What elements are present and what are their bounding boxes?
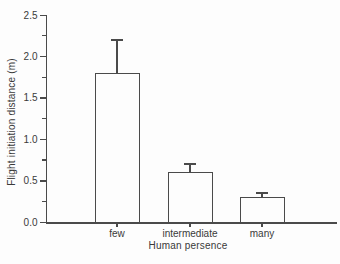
x-axis-title: Human persence [149, 240, 228, 251]
y-minor-tick [42, 118, 46, 119]
bar-chart-figure: Flight initiation distance (m) Human per… [0, 0, 340, 264]
x-category-label-many: many [217, 228, 307, 239]
x-axis-line [46, 222, 338, 224]
y-tick-label: 2.5 [14, 10, 38, 21]
bar-many [240, 197, 285, 222]
y-minor-tick [42, 159, 46, 160]
x-tick-few [116, 224, 117, 227]
x-tick-many [261, 224, 262, 227]
y-tick-label: 1.0 [14, 134, 38, 145]
y-major-tick [40, 56, 46, 58]
error-bar-line-few [116, 40, 118, 73]
y-minor-tick [42, 35, 46, 36]
error-bar-cap-intermediate [184, 163, 196, 165]
y-tick-label: 1.5 [14, 92, 38, 103]
y-major-tick [40, 180, 46, 182]
error-bar-cap-many [256, 192, 268, 194]
x-tick-intermediate [189, 224, 190, 227]
y-minor-tick [42, 77, 46, 78]
bar-intermediate [168, 172, 213, 222]
y-axis-title: Flight initiation distance (m) [6, 58, 17, 186]
y-major-tick [40, 222, 46, 224]
y-tick-label: 0.5 [14, 175, 38, 186]
y-axis-line [46, 15, 48, 224]
error-bar-cap-few [111, 39, 123, 41]
error-bar-line-intermediate [189, 164, 191, 172]
y-tick-label: 0.0 [14, 217, 38, 228]
y-major-tick [40, 15, 46, 17]
y-tick-label: 2.0 [14, 51, 38, 62]
bar-few [95, 73, 140, 222]
y-minor-tick [42, 201, 46, 202]
y-major-tick [40, 97, 46, 99]
y-major-tick [40, 139, 46, 141]
